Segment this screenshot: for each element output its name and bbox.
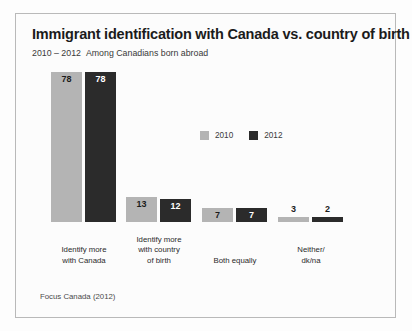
- chart-screenshot: Immigrant identification with Canada vs.…: [0, 0, 412, 331]
- bar-value-label: 7: [202, 210, 233, 221]
- bar-2010[interactable]: 7: [202, 208, 233, 222]
- category-label-line: Neither/: [269, 245, 353, 256]
- bar-pair: 13 12: [123, 72, 195, 222]
- bar-pair: 78 78: [48, 72, 120, 222]
- bar-value-label: 2: [312, 204, 343, 215]
- chart-legend: 2010 2012: [200, 131, 282, 140]
- plot-area: 78 78 Identify more with Canada 13 12: [15, 13, 396, 318]
- bar-value-label: 13: [126, 199, 157, 210]
- chart-source-note: Focus Canada (2012): [40, 292, 115, 301]
- category-label-line: Identify more: [117, 235, 201, 246]
- legend-swatch-icon: [249, 131, 258, 140]
- bar-2012[interactable]: 7: [236, 208, 267, 222]
- category-label: Identify more with country of birth: [117, 235, 201, 267]
- bar-value-label: 7: [236, 210, 267, 221]
- bar-value-label: 12: [160, 201, 191, 212]
- category-label-line: with Canada: [42, 256, 126, 267]
- category-label: Both equally: [193, 256, 277, 267]
- legend-item-2012[interactable]: 2012: [249, 131, 282, 140]
- bar-pair: 3 2: [275, 72, 347, 222]
- legend-item-2010[interactable]: 2010: [200, 131, 233, 140]
- bar-2012[interactable]: 78: [85, 72, 116, 222]
- bar-2012[interactable]: 2: [312, 217, 343, 222]
- category-label-line: Identify more: [42, 245, 126, 256]
- bar-2012[interactable]: 12: [160, 199, 191, 222]
- bar-value-label: 78: [51, 74, 82, 85]
- bar-2010[interactable]: 3: [278, 217, 309, 222]
- bar-value-label: 3: [278, 204, 309, 215]
- category-label-line: of birth: [117, 256, 201, 267]
- category-label: Neither/ dk/na: [269, 245, 353, 266]
- category-label-line: Both equally: [193, 256, 277, 267]
- legend-swatch-icon: [200, 131, 209, 140]
- legend-label: 2010: [215, 131, 233, 140]
- category-label: Identify more with Canada: [42, 245, 126, 266]
- bar-value-label: 78: [85, 74, 116, 85]
- bar-2010[interactable]: 78: [51, 72, 82, 222]
- category-label-line: dk/na: [269, 256, 353, 267]
- legend-label: 2012: [264, 131, 282, 140]
- category-label-line: with country: [117, 245, 201, 256]
- bar-2010[interactable]: 13: [126, 197, 157, 222]
- bar-pair: 7 7: [199, 72, 271, 222]
